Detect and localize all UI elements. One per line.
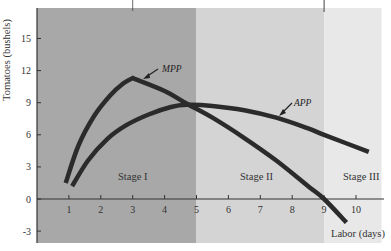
y-tick-label: 12	[21, 65, 31, 76]
y-tick-label: -3	[23, 226, 31, 237]
app-label: APP	[293, 98, 312, 108]
x-tick-label: 5	[194, 204, 199, 215]
y-tick-label: 9	[26, 97, 31, 108]
x-tick-label: 10	[351, 204, 361, 215]
x-tick-label: 9	[322, 204, 327, 215]
x-tick-label: 7	[258, 204, 263, 215]
y-tick-label: 6	[26, 129, 31, 140]
production-stages-chart: 12345678910-303691215 Tomatoes (bushels)…	[0, 0, 391, 251]
x-tick-label: 4	[162, 204, 167, 215]
x-axis-title: Labor (days)	[331, 228, 385, 240]
x-tick-label: 3	[130, 204, 135, 215]
y-tick-label: 15	[21, 33, 31, 44]
x-tick-label: 2	[98, 204, 103, 215]
stage-3-label: Stage III	[343, 171, 380, 182]
stage-region-1	[37, 8, 197, 243]
y-tick-label: 0	[26, 194, 31, 205]
mpp-label: MPP	[161, 64, 182, 74]
y-tick-label: 3	[26, 161, 31, 172]
x-tick-label: 6	[226, 204, 231, 215]
x-tick-label: 8	[290, 204, 295, 215]
x-tick-label: 1	[66, 204, 71, 215]
y-axis-title: Tomatoes (bushels)	[1, 19, 13, 101]
stage-1-label: Stage I	[118, 171, 148, 182]
stage-2-label: Stage II	[240, 171, 273, 182]
